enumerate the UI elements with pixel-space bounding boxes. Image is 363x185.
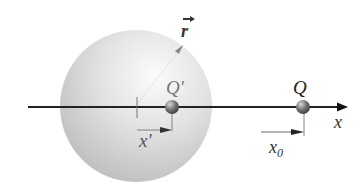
charge-distance-marker <box>261 108 304 136</box>
axis-label: x <box>334 113 342 131</box>
image-charge-label: Q' <box>166 78 184 97</box>
charge-position-label: x0 <box>269 138 283 159</box>
diagram-stage: Q' Q x x0 x' r <box>0 0 363 185</box>
charge-position-symbol: x <box>269 137 277 157</box>
image-charge-ball <box>165 100 179 114</box>
charge-ball <box>296 100 310 114</box>
image-position-label: x' <box>139 131 152 150</box>
axis-arrow-icon <box>337 103 348 112</box>
charge-label: Q <box>293 78 307 97</box>
charge-position-subscript: 0 <box>277 146 283 160</box>
vector-arrowhead-icon <box>190 16 195 22</box>
radius-vector-label: r <box>181 22 188 40</box>
